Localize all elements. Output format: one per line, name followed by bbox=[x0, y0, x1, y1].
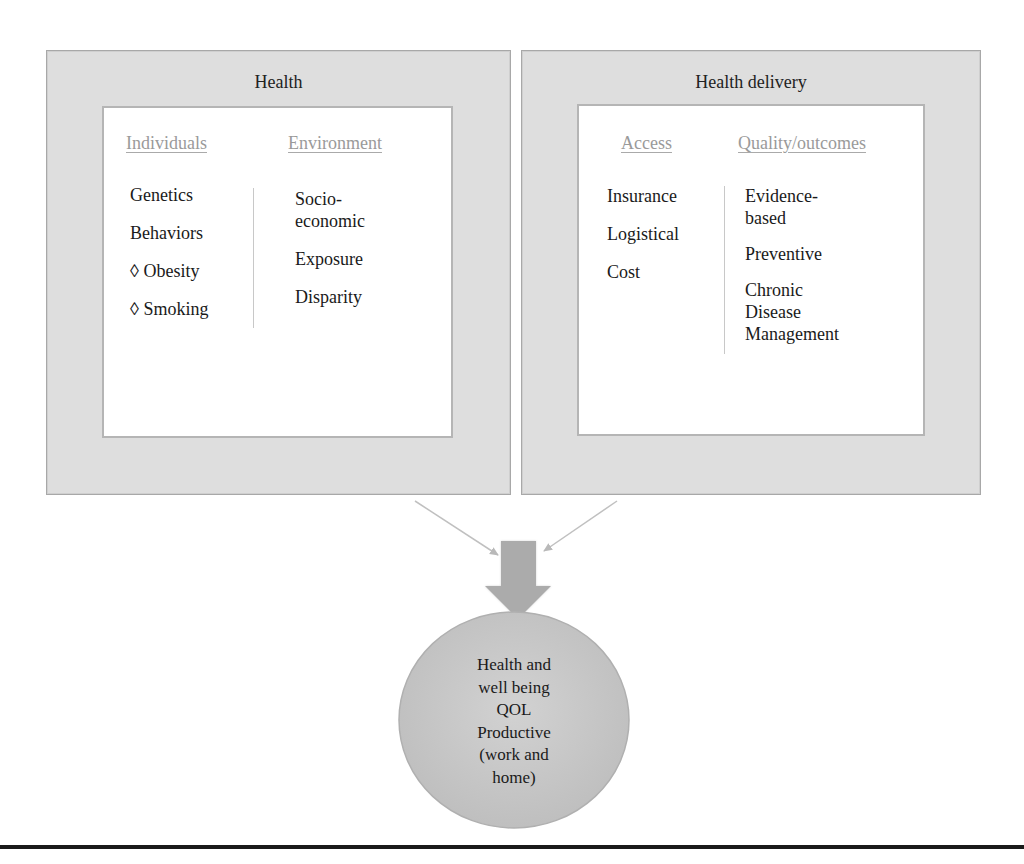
health-delivery-panel: Health delivery Access Quality/outcomes … bbox=[521, 50, 981, 495]
health-panel-content: Individuals Environment Genetics Behavio… bbox=[102, 106, 453, 438]
list-item: Insurance bbox=[607, 185, 679, 207]
connector-arrow-left bbox=[415, 501, 498, 555]
list-item: ◊ Obesity bbox=[130, 260, 208, 282]
list-item: Chronic Disease Management bbox=[745, 279, 839, 345]
outcome-line: (work and bbox=[430, 744, 598, 767]
list-item: Socio- economic bbox=[295, 188, 365, 232]
column-divider bbox=[724, 186, 725, 354]
outcome-line: Health and bbox=[430, 654, 598, 677]
health-delivery-panel-content: Access Quality/outcomes Insurance Logist… bbox=[577, 104, 925, 436]
individuals-list: Genetics Behaviors ◊ Obesity ◊ Smoking bbox=[130, 184, 208, 336]
outcome-line: QOL bbox=[430, 699, 598, 722]
environment-list: Socio- economic Exposure Disparity bbox=[295, 188, 365, 324]
bottom-rule bbox=[0, 845, 1024, 849]
outcome-label: Health and well being QOL Productive (wo… bbox=[430, 654, 598, 789]
list-item: Exposure bbox=[295, 248, 365, 270]
access-header: Access bbox=[621, 133, 672, 154]
individuals-header: Individuals bbox=[126, 133, 207, 154]
access-list: Insurance Logistical Cost bbox=[607, 185, 679, 299]
connector-arrow-right bbox=[544, 501, 617, 551]
list-item: Logistical bbox=[607, 223, 679, 245]
outcome-line: well being bbox=[430, 677, 598, 700]
health-panel: Health Individuals Environment Genetics … bbox=[46, 50, 511, 495]
column-divider bbox=[253, 188, 254, 328]
list-item: Disparity bbox=[295, 286, 365, 308]
list-item: Preventive bbox=[745, 243, 839, 265]
health-panel-title: Health bbox=[47, 72, 510, 93]
list-item: Behaviors bbox=[130, 222, 208, 244]
environment-header: Environment bbox=[288, 133, 382, 154]
list-item: Cost bbox=[607, 261, 679, 283]
health-delivery-panel-title: Health delivery bbox=[522, 72, 980, 93]
list-item: Genetics bbox=[130, 184, 208, 206]
outcome-line: home) bbox=[430, 767, 598, 790]
list-item: ◊ Smoking bbox=[130, 298, 208, 320]
outcome-line: Productive bbox=[430, 722, 598, 745]
quality-outcomes-header: Quality/outcomes bbox=[738, 133, 866, 154]
quality-outcomes-list: Evidence- based Preventive Chronic Disea… bbox=[745, 185, 839, 361]
list-item: Evidence- based bbox=[745, 185, 839, 229]
